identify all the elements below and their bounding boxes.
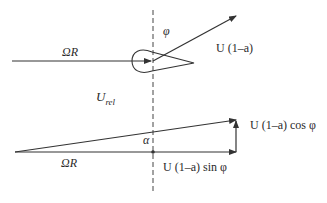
label-u-rel: Urel — [96, 90, 115, 107]
label-omega-r-top: ΩR — [62, 46, 78, 58]
label-phi: φ — [163, 25, 170, 37]
label-alpha: α — [143, 134, 149, 146]
label-omega-r-bottom: ΩR — [61, 157, 77, 169]
label-u-one-minus-a: U (1–a) — [216, 42, 253, 54]
label-u-cos-phi: U (1–a) cos φ — [250, 119, 316, 131]
u-rel-hypotenuse — [15, 120, 236, 152]
intersection-dot — [151, 150, 155, 154]
label-u-sin-phi: U (1–a) sin φ — [163, 161, 227, 173]
